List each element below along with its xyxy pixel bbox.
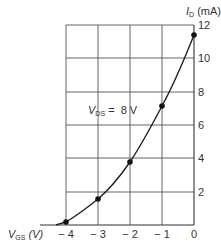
svg-text:12: 12 (198, 19, 210, 31)
svg-text:8: 8 (198, 86, 204, 98)
svg-text:− 1: − 1 (154, 228, 170, 240)
svg-text:0: 0 (191, 228, 197, 240)
transfer-curve (56, 35, 194, 225)
grid (66, 25, 194, 225)
y-axis-label: ID(mA) (186, 5, 221, 18)
y-tick-labels: 2 4 6 8 10 12 (198, 19, 210, 198)
x-axis-label: VGS(V) (8, 228, 43, 241)
svg-text:10: 10 (198, 52, 210, 64)
transfer-characteristic-chart: 2 4 6 8 10 12 − 4 − 3 − 2 − 1 0 ID(mA) V… (0, 0, 221, 245)
svg-text:2: 2 (198, 186, 204, 198)
x-tick-labels: − 4 − 3 − 2 − 1 0 (58, 228, 197, 240)
svg-text:− 3: − 3 (90, 228, 106, 240)
svg-text:− 4: − 4 (58, 228, 74, 240)
svg-text:6: 6 (198, 119, 204, 131)
svg-text:− 2: − 2 (122, 228, 138, 240)
vds-annotation: VDS = 8 V (88, 104, 138, 117)
svg-text:4: 4 (198, 152, 204, 164)
